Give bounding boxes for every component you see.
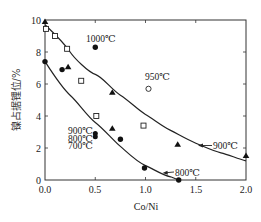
data-point-square	[53, 34, 58, 39]
filled-circle-markers	[42, 45, 181, 183]
annotation-800c-curve: 800℃	[175, 168, 200, 178]
x-tick-labels: 0.0 0.5 1.0 1.5 2.0	[39, 184, 253, 195]
data-point-circle	[142, 165, 147, 170]
data-point-circle	[176, 177, 181, 182]
y-tick-label: 6	[36, 79, 41, 90]
data-point-open-circle	[146, 86, 151, 91]
y-tick-label: 10	[31, 15, 41, 26]
data-point-circle	[59, 67, 64, 72]
data-point-triangle	[42, 19, 49, 25]
annotation-700c-stack: 700℃	[68, 141, 93, 151]
data-point-circle	[118, 137, 123, 142]
annotation-900c-curve: 900℃	[213, 141, 238, 151]
data-point-circle	[93, 45, 98, 50]
data-point-square	[141, 123, 146, 128]
x-tick-label: 0.0	[39, 184, 52, 195]
annotation-950c: 950℃	[145, 72, 170, 82]
data-point-square	[94, 114, 99, 119]
y-tick-labels: 0 2 4 6 8 10	[31, 15, 41, 186]
y-tick-label: 4	[36, 111, 41, 122]
data-point-square	[79, 78, 84, 83]
x-tick-label: 1.0	[139, 184, 152, 195]
x-tick-label: 0.5	[89, 184, 102, 195]
x-ticks	[95, 20, 196, 180]
data-point-triangle	[65, 64, 72, 69]
y-tick-label: 2	[36, 143, 41, 154]
annotation-1000c: 1000℃	[86, 34, 116, 44]
y-tick-label: 0	[36, 175, 41, 186]
x-tick-label: 1.5	[190, 184, 203, 195]
data-point-circle	[42, 59, 47, 64]
x-tick-label: 2.0	[240, 184, 253, 195]
data-point-triangle	[243, 152, 250, 158]
y-axis-title: 镍占据锂位/%	[10, 69, 22, 132]
data-point-circle	[93, 134, 98, 139]
y-tick-label: 8	[36, 47, 41, 58]
x-axis-title: Co/Ni	[134, 201, 159, 212]
data-point-triangle	[109, 125, 116, 131]
data-point-square	[44, 26, 49, 31]
chart: 0.0 0.5 1.0 1.5 2.0 0 2 4 6 8 10 Co/Ni 镍…	[0, 0, 261, 222]
data-point-square	[65, 46, 70, 51]
data-point-triangle	[174, 141, 181, 147]
